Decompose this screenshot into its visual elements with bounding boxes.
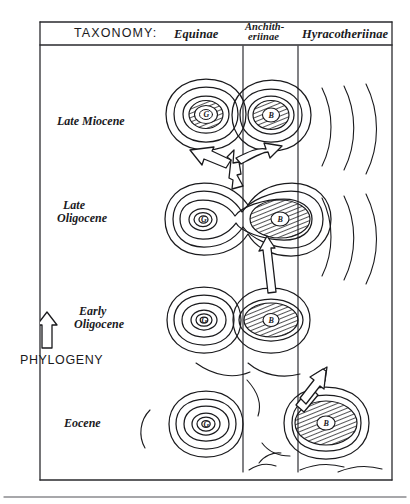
peak-late-oligocene-merged (165, 183, 331, 256)
core-letter-early-oligocene-anchitheriinae: B (269, 316, 274, 325)
core-letter-late-miocene-anchitheriinae: B (269, 111, 274, 120)
core-letter-eocene-equinae: G (204, 420, 210, 429)
core-letter-late-oligocene-anchitheriinae: B (278, 215, 283, 224)
phylogeny-figure: TAXONOMY: Equinae Anchith- eriinae Hyrac… (0, 0, 410, 504)
column-header-anchitheriinae-line2: eriinae (248, 32, 279, 43)
epoch-label-early-oligocene-line2: Oligocene (74, 318, 124, 332)
epoch-label-eocene: Eocene (64, 417, 101, 431)
column-header-equinae: Equinae (174, 27, 218, 42)
core-letter-eocene-hyracotheriinae: B (324, 419, 329, 428)
core-letter-late-miocene-equinae: G (204, 110, 210, 119)
arrow-late-oligocene-branching (190, 143, 282, 189)
arrow-early-to-late-oligocene (259, 236, 276, 293)
epoch-label-late-miocene: Late Miocene (57, 115, 125, 129)
phylogeny-axis-label: PHYLOGENY (20, 353, 103, 367)
taxonomy-label: TAXONOMY: (74, 26, 157, 40)
epoch-label-late-oligocene-line2: Oligocene (57, 212, 107, 226)
core-letter-early-oligocene-equinae: G (202, 316, 208, 325)
core-letter-late-oligocene-equinae: G (201, 215, 207, 224)
column-header-hyracotheriinae: Hyracotheriinae (302, 27, 388, 42)
